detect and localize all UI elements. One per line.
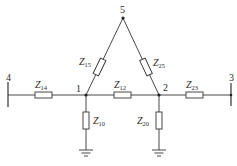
- circuit-diagram: 4 1 2 3 5 Z14 Z12 Z23 Z15 Z25 Z10 Z20: [0, 0, 237, 166]
- node-dot-2: [157, 93, 160, 96]
- node-label-5: 5: [120, 4, 125, 15]
- impedance-z10: [83, 112, 89, 129]
- impedance-label-z20: Z20: [137, 115, 149, 127]
- node-label-1: 1: [76, 83, 81, 94]
- node-label-4: 4: [6, 72, 11, 83]
- impedance-label-z14: Z14: [35, 79, 48, 91]
- impedance-z20: [156, 112, 162, 129]
- node-dot-3: [230, 94, 233, 97]
- impedance-label-z15: Z15: [79, 56, 91, 68]
- ground-icon-1: [79, 150, 93, 156]
- impedance-label-z12: Z12: [114, 79, 126, 91]
- node-dot-1: [84, 93, 87, 96]
- impedance-label-z23: Z23: [186, 79, 198, 91]
- impedance-label-z10: Z10: [93, 115, 105, 127]
- ground-icon-2: [152, 150, 166, 156]
- impedance-z15: [93, 58, 106, 76]
- node-label-2: 2: [163, 82, 168, 93]
- impedance-label-z25: Z25: [153, 57, 165, 69]
- impedance-z25: [140, 58, 153, 76]
- node-dot-5: [121, 16, 124, 19]
- impedance-z14: [35, 92, 52, 98]
- impedance-z12: [114, 92, 131, 98]
- node-label-3: 3: [229, 72, 234, 83]
- impedance-z23: [186, 92, 203, 98]
